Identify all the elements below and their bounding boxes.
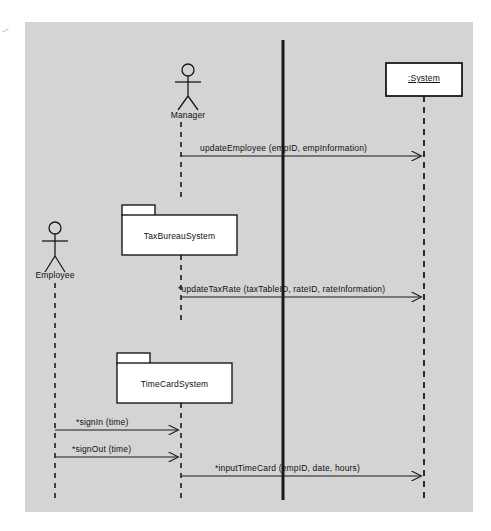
actor-label-employee: Employee: [29, 270, 81, 280]
message-label-input-time-card: *inputTimeCard (empID, date, hours): [215, 463, 360, 473]
actor-label-manager-display: Manager: [162, 110, 214, 120]
actor-head-icon: [182, 64, 194, 76]
message-label-sign-in: *signIn (time): [76, 417, 128, 427]
message-label-update-employee: updateEmployee (empID, empInformation): [200, 143, 367, 153]
package-taxbureausystem[interactable]: [122, 205, 237, 320]
package-label-timecardsystem: TimeCardSystem: [117, 379, 232, 389]
actor-head-icon: [49, 222, 61, 234]
actor-left-leg-line: [178, 96, 188, 110]
message-label-sign-out: *signOut (time): [72, 444, 131, 454]
message-label-update-tax-rate: *updateTaxRate (taxTableID, rateID, rate…: [178, 284, 385, 294]
actor-right-leg-line: [188, 96, 198, 110]
sequence-diagram-page: Manager Manager Employee :System TaxBure…: [0, 0, 491, 531]
package-timecardsystem[interactable]: [117, 353, 232, 500]
actor-manager[interactable]: [175, 64, 201, 198]
package-label-taxbureausystem: TaxBureauSystem: [122, 231, 237, 241]
actor-employee[interactable]: [42, 222, 68, 500]
object-label-system: :System: [386, 73, 462, 83]
object-system[interactable]: [386, 63, 462, 500]
